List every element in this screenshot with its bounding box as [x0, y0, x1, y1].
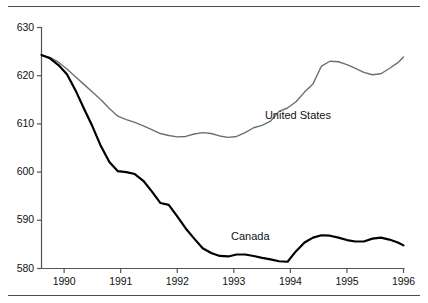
- line-chart-plot: [0, 0, 428, 303]
- x-axis-tick-label: 1992: [157, 275, 197, 287]
- chart-axes: [37, 27, 405, 273]
- y-axis-tick-label: 620: [10, 69, 34, 81]
- y-axis-tick-label: 580: [10, 262, 34, 274]
- y-axis-tick-label: 600: [10, 165, 34, 177]
- x-axis-tick-label: 1995: [327, 275, 367, 287]
- y-axis-tick-label: 610: [10, 117, 34, 129]
- series-line-united-states: [42, 55, 404, 137]
- series-label-canada: Canada: [231, 230, 270, 242]
- x-axis-tick-label: 1994: [270, 275, 310, 287]
- x-axis-tick-label: 1991: [101, 275, 141, 287]
- x-axis-tick-label: 1996: [384, 275, 424, 287]
- x-axis-tick-label: 1993: [214, 275, 254, 287]
- series-line-canada: [42, 55, 404, 262]
- series-label-united-states: United States: [265, 109, 331, 121]
- y-axis-tick-label: 590: [10, 213, 34, 225]
- chart-figure: 580590600610620630 199019911992199319941…: [0, 0, 428, 303]
- y-axis-tick-label: 630: [10, 21, 34, 33]
- chart-series: [42, 55, 404, 262]
- x-axis-tick-label: 1990: [44, 275, 84, 287]
